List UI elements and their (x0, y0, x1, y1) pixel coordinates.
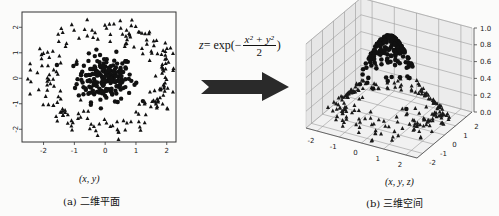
z-tick-label: 0.6 (480, 58, 492, 66)
z-tick-label: 0.4 (480, 75, 492, 83)
x-tick-label: 1 (375, 155, 379, 163)
y-tick-label: -2 (429, 159, 436, 167)
right-caption: (b) 三维空间 (366, 195, 423, 210)
y-tick-label: 0 (452, 141, 456, 149)
x-tick-label: 2 (398, 161, 402, 169)
x-tick-label: -2 (308, 137, 315, 145)
left-caption: (a) 二维平面 (63, 193, 120, 208)
y-tick-label: 2 (474, 123, 478, 131)
formula-fraction: x² + y² 2 (243, 33, 276, 58)
right-axis-label: (x, y, z) (385, 176, 414, 187)
formula-numerator: x² + y² (243, 33, 276, 46)
y-tick-label: 1 (463, 132, 467, 140)
formula-denominator: 2 (256, 46, 262, 58)
z-tick-label: 1.0 (480, 25, 491, 33)
formula-close: ) (277, 38, 281, 53)
z-tick-label: 0.0 (480, 109, 491, 117)
plot3d-area: 0.00.20.40.60.81.0-2-1012-2-1012 (306, 0, 492, 169)
left-axis-label: (x, y) (79, 173, 100, 184)
formula-exp: = exp(− (204, 38, 242, 53)
x-tick-label: 0 (353, 149, 357, 157)
y-tick-label: -1 (440, 150, 447, 158)
transform-formula: z = exp(− x² + y² 2 ) (199, 33, 281, 58)
z-tick-label: 0.2 (480, 92, 491, 100)
z-tick-label: 0.8 (480, 41, 491, 49)
x-tick-label: -1 (330, 143, 337, 151)
